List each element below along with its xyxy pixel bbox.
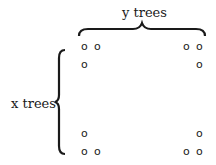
braces [0, 0, 216, 165]
tree-marker: o [81, 128, 88, 139]
tree-marker: o [81, 59, 88, 70]
tree-marker: o [196, 146, 203, 157]
tree-marker: o [196, 128, 203, 139]
tree-marker: o [196, 59, 203, 70]
horizontal-brace [79, 23, 205, 36]
tree-marker: o [81, 146, 88, 157]
tree-marker: o [196, 41, 203, 52]
tree-marker: o [94, 41, 101, 52]
vertical-brace [55, 50, 65, 154]
tree-marker: o [94, 146, 101, 157]
tree-marker: o [183, 146, 190, 157]
tree-marker: o [81, 41, 88, 52]
tree-marker: o [183, 41, 190, 52]
